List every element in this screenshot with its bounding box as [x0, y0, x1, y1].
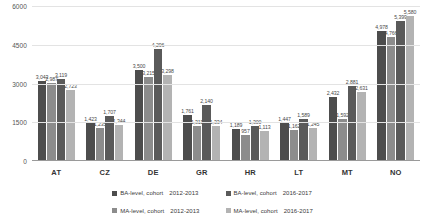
bar: 5,580 — [406, 16, 415, 160]
bar: 2,631 — [357, 92, 366, 160]
y-axis-tick: 6000 — [12, 3, 27, 10]
bar: 4,978 — [377, 31, 386, 160]
bar-value-label: 1,707 — [103, 109, 115, 115]
x-axis-tick: MT — [323, 168, 372, 182]
x-axis-tick: NO — [372, 168, 421, 182]
bar: 3,215 — [144, 77, 153, 160]
legend-label: MA-level, cohort — [120, 208, 164, 214]
bar-value-label: 3,119 — [55, 72, 67, 78]
bar: 1,113 — [260, 131, 269, 160]
y-axis-tick: 1500 — [12, 119, 27, 126]
bar-value-label: 957 — [241, 128, 249, 134]
x-axis-labels: ATCZDEGRHRLTMTNO — [32, 168, 420, 182]
y-axis-tick: 4500 — [12, 41, 27, 48]
bar: 3,119 — [57, 79, 66, 160]
bar-value-label: 2,140 — [200, 98, 212, 104]
legend-period: 2016-2017 — [283, 190, 312, 196]
bar: 3,043 — [38, 81, 47, 160]
x-axis-line — [32, 160, 420, 161]
legend-grid: BA-level, cohort2012-2013BA-level, cohor… — [112, 186, 313, 218]
bar-value-label: 3,500 — [133, 63, 145, 69]
y-axis-tick: 0 — [23, 158, 27, 165]
bar-value-label: 1,113 — [258, 124, 270, 130]
bar: 4,766 — [387, 37, 396, 160]
legend-period: 2016-2017 — [284, 208, 313, 214]
x-axis-tick: AT — [32, 168, 81, 182]
legend-label: BA-level, cohort — [120, 190, 163, 196]
bar-value-label: 5,580 — [404, 9, 416, 15]
legend-swatch-icon — [112, 191, 117, 196]
bar: 1,189 — [232, 129, 241, 160]
bar-value-label: 1,589 — [297, 112, 309, 118]
y-axis: 01500300045006000 — [0, 6, 30, 161]
legend-label: BA-level, cohort — [234, 190, 277, 196]
gridline — [32, 122, 420, 123]
legend-swatch-icon — [112, 208, 117, 213]
y-axis-tick: 3000 — [12, 80, 27, 87]
legend-period: 2012-2013 — [170, 208, 199, 214]
bar-value-label: 1,447 — [278, 116, 290, 122]
bar: 957 — [241, 135, 250, 160]
bar: 1,300 — [251, 126, 260, 160]
bar: 4,296 — [154, 49, 163, 160]
x-axis-tick: DE — [129, 168, 178, 182]
legend-period: 2012-2013 — [169, 190, 198, 196]
bar: 1,334 — [212, 126, 221, 160]
bar: 1,245 — [309, 128, 318, 160]
bar: 2,432 — [329, 97, 338, 160]
x-axis-tick: GR — [178, 168, 227, 182]
gridline — [32, 84, 420, 85]
legend-label: MA-level, cohort — [234, 208, 278, 214]
bar: 3,298 — [163, 75, 172, 160]
bar: 1,344 — [115, 125, 124, 160]
bar-value-label: 1,761 — [181, 108, 193, 114]
plot-area: 01500300045006000 3,0432,9873,1192,7231,… — [0, 6, 425, 168]
legend-item[interactable]: BA-level, cohort2016-2017 — [226, 186, 313, 201]
chart-legend: BA-level, cohort2012-2013BA-level, cohor… — [0, 186, 425, 218]
bar-value-label: 2,432 — [327, 90, 339, 96]
x-axis-tick: LT — [275, 168, 324, 182]
bar-value-label: 3,298 — [161, 68, 173, 74]
grouped-bar-chart: 01500300045006000 3,0432,9873,1192,7231,… — [0, 0, 425, 224]
bar: 5,399 — [396, 21, 405, 160]
legend-item[interactable]: MA-level, cohort2012-2013 — [112, 204, 199, 219]
grid-area: 3,0432,9873,1192,7231,4231,2351,7071,344… — [32, 6, 420, 161]
legend-item[interactable]: MA-level, cohort2016-2017 — [226, 204, 313, 219]
bar: 1,311 — [193, 126, 202, 160]
bar: 1,235 — [96, 128, 105, 160]
bar: 1,162 — [290, 130, 299, 160]
legend-item[interactable]: BA-level, cohort2012-2013 — [112, 186, 199, 201]
bar: 2,140 — [202, 105, 211, 160]
legend-swatch-icon — [226, 191, 231, 196]
bar: 1,423 — [86, 123, 95, 160]
bar: 1,592 — [338, 119, 347, 160]
gridline — [32, 6, 420, 7]
gridline — [32, 45, 420, 46]
legend-swatch-icon — [226, 208, 231, 213]
bar-value-label: 2,631 — [355, 85, 367, 91]
bar: 2,723 — [66, 90, 75, 160]
x-axis-tick: HR — [226, 168, 275, 182]
x-axis-tick: CZ — [81, 168, 130, 182]
